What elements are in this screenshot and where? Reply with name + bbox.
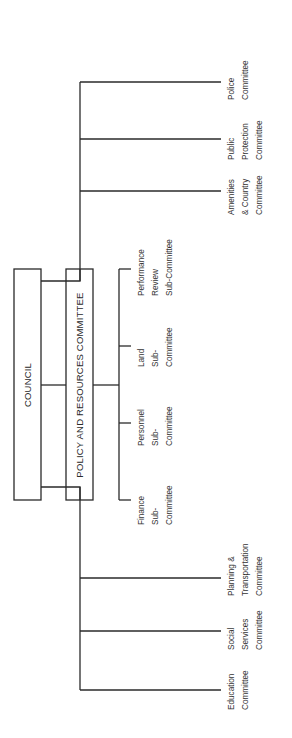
label-line: Committee bbox=[255, 175, 264, 215]
label-line: Planning & bbox=[227, 556, 236, 596]
label-line: Personnel bbox=[137, 409, 146, 446]
committee-public-protection: Public Protection Committee bbox=[227, 120, 264, 160]
label-line: Public bbox=[227, 138, 236, 160]
policy-resources-label: POLICY AND RESOURCES COMMITTEE bbox=[74, 292, 85, 477]
label-line: Transportation bbox=[241, 543, 250, 596]
label-line: Committee bbox=[165, 327, 174, 367]
sub-committee-personnel: Personnel Sub- Committee bbox=[137, 406, 174, 446]
label-line: Committee bbox=[241, 670, 250, 710]
label-line: Committee bbox=[255, 556, 264, 596]
org-chart: COUNCIL POLICY AND RESOURCES COMMITTEE F… bbox=[0, 0, 292, 738]
committee-police: Police Committee bbox=[227, 60, 250, 100]
label-line: Review bbox=[151, 269, 160, 296]
sub-committee-performance-review: Performance Review Sub-Committee bbox=[137, 239, 174, 296]
label-line: Sub- bbox=[151, 428, 160, 446]
label-line: Social bbox=[227, 628, 236, 650]
sub-committee-finance: Finance Sub- Committee bbox=[137, 485, 174, 525]
label-line: Sub- bbox=[151, 349, 160, 367]
label-line: Police bbox=[227, 77, 236, 100]
label-line: Committee bbox=[165, 406, 174, 446]
committee-social-services: Social Services Committee bbox=[227, 610, 264, 650]
label-line: Land bbox=[137, 348, 146, 367]
label-line: Services bbox=[241, 619, 250, 650]
label-line: Committee bbox=[255, 610, 264, 650]
label-line: & Country bbox=[241, 178, 250, 215]
label-line: Amenities bbox=[227, 179, 236, 215]
label-line: Sub-Committee bbox=[165, 239, 174, 296]
committee-education: Education Committee bbox=[227, 670, 250, 710]
label-line: Sub- bbox=[151, 507, 160, 525]
label-line: Committee bbox=[241, 60, 250, 100]
label-line: Finance bbox=[137, 495, 146, 525]
label-line: Committee bbox=[255, 120, 264, 160]
council-label: COUNCIL bbox=[22, 363, 33, 407]
sub-committee-land: Land Sub- Committee bbox=[137, 327, 174, 367]
label-line: Committee bbox=[165, 485, 174, 525]
label-line: Performance bbox=[137, 249, 146, 296]
committee-planning-transportation: Planning & Transportation Committee bbox=[227, 543, 264, 596]
committee-amenities-country: Amenities & Country Committee bbox=[227, 175, 264, 215]
label-line: Education bbox=[227, 673, 236, 710]
label-line: Protection bbox=[241, 123, 250, 160]
